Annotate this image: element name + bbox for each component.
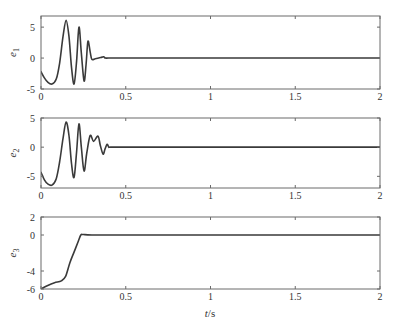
y-tick-label: -5: [27, 171, 35, 182]
x-axis-label: t/s: [205, 307, 215, 319]
series-line-e1: [41, 20, 380, 84]
x-tick-label: 0.5: [120, 190, 133, 201]
x-tick-label: 1: [208, 190, 213, 201]
x-tick-label: 0.5: [120, 91, 133, 102]
x-tick-label: 0.5: [120, 291, 133, 302]
figure: 00.511.52-505e1 00.511.52-505e2 00.511.5…: [0, 0, 400, 335]
x-tick-label: 0: [39, 291, 44, 302]
y-tick-label: -4: [27, 266, 35, 277]
y-tick-label: 5: [30, 113, 35, 124]
subplot-e3: 00.511.52-6-402e3: [6, 212, 383, 303]
y-tick-label: -6: [27, 284, 35, 295]
y-axis-label: e1: [6, 48, 21, 57]
axes-frame: [41, 118, 380, 188]
x-tick-label: 1: [208, 91, 213, 102]
y-tick-label: 0: [30, 142, 35, 153]
y-axis-label: e2: [6, 149, 21, 158]
x-tick-label: 0: [39, 91, 44, 102]
x-tick-label: 1.5: [289, 291, 302, 302]
y-tick-label: 5: [30, 22, 35, 33]
y-tick-label: 0: [30, 53, 35, 64]
axes-frame: [41, 16, 380, 89]
x-tick-label: 0: [39, 190, 44, 201]
y-tick-label: 2: [30, 212, 35, 223]
x-tick-label: 2: [378, 190, 383, 201]
subplot-e1: 00.511.52-505e1: [6, 16, 383, 102]
y-tick-label: 0: [30, 230, 35, 241]
x-tick-label: 1: [208, 291, 213, 302]
axes-frame: [41, 217, 380, 289]
y-axis-label: e3: [6, 249, 21, 258]
chart-svg: 00.511.52-505e1 00.511.52-505e2 00.511.5…: [0, 0, 400, 335]
x-tick-label: 1.5: [289, 91, 302, 102]
subplot-e2: 00.511.52-505e2: [6, 113, 383, 202]
x-tick-label: 2: [378, 291, 383, 302]
x-tick-label: 1.5: [289, 190, 302, 201]
y-tick-label: -5: [27, 84, 35, 95]
x-tick-label: 2: [378, 91, 383, 102]
series-line-e2: [41, 122, 380, 185]
series-line-e3: [41, 234, 380, 289]
